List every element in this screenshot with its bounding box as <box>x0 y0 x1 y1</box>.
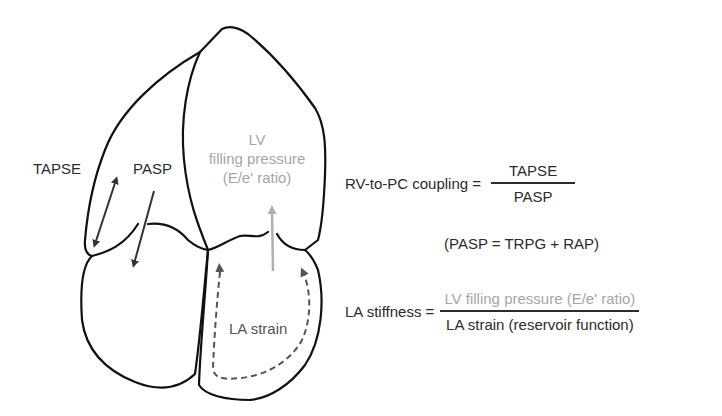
lv-label-line1: LV <box>196 130 318 149</box>
ra-outline <box>81 250 208 388</box>
pasp-definition: (PASP = TRPG + RAP) <box>444 236 599 251</box>
la-stiffness-equation: LA stiffness = LV filling pressure (E/e'… <box>345 290 639 333</box>
lv-label-line2: filling pressure <box>196 149 318 168</box>
rv-pc-coupling-equation: RV-to-PC coupling = TAPSE PASP <box>345 162 575 205</box>
lv-label-line3: (E/e' ratio) <box>196 168 318 187</box>
rv-pc-denominator: PASP <box>510 184 557 205</box>
la-strain-label: LA strain <box>229 321 287 336</box>
la-stiffness-fraction: LV filling pressure (E/e' ratio) LA stra… <box>440 290 639 333</box>
rv-pc-fraction: TAPSE PASP <box>491 162 575 205</box>
tapse-label: TAPSE <box>33 161 81 176</box>
lv-label: LV filling pressure (E/e' ratio) <box>196 130 318 187</box>
pasp-label: PASP <box>133 161 172 176</box>
lv-pressure-arrow <box>272 210 273 271</box>
tricuspid-annulus <box>92 224 208 256</box>
la-stiffness-lhs: LA stiffness = <box>345 303 434 320</box>
la-stiffness-numerator: LV filling pressure (E/e' ratio) <box>440 290 639 310</box>
la-stiffness-denominator: LA strain (reservoir function) <box>442 312 638 333</box>
heart-diagram <box>0 0 722 416</box>
rv-pc-numerator: TAPSE <box>491 162 575 182</box>
tapse-arrow <box>95 180 116 244</box>
mitral-annulus <box>208 232 305 250</box>
rv-pc-lhs: RV-to-PC coupling = <box>345 175 481 192</box>
